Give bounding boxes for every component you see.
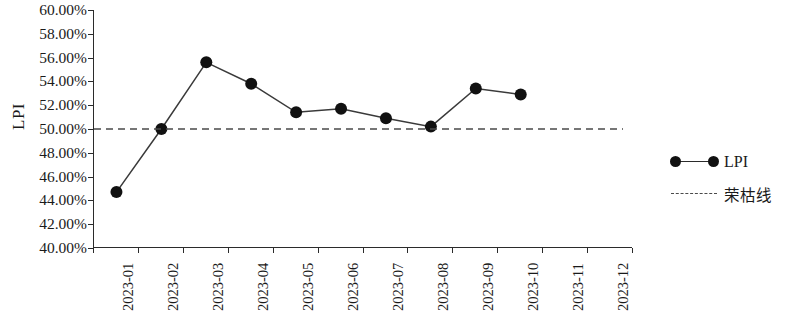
x-axis-tick-label: 2023-11 bbox=[571, 241, 586, 311]
legend-marker-icon bbox=[708, 156, 719, 167]
x-axis-tick-label: 2023-09 bbox=[481, 241, 496, 311]
legend-marker-icon bbox=[670, 156, 681, 167]
x-axis-tick-label: 2023-12 bbox=[616, 241, 631, 311]
legend-dashed-line-icon bbox=[671, 193, 717, 194]
x-axis-tick-label: 2023-04 bbox=[256, 241, 271, 311]
lpi-line-chart: LPI 60.00%58.00%56.00%54.00%52.00%50.00%… bbox=[0, 0, 800, 321]
legend-item-reference-line[interactable]: 荣枯线 bbox=[668, 178, 796, 210]
x-axis-tick-label: 2023-08 bbox=[436, 241, 451, 311]
legend-key-dashed-line bbox=[668, 185, 720, 203]
x-axis-tick-label: 2023-05 bbox=[301, 241, 316, 311]
legend-key-line-marker bbox=[668, 153, 720, 171]
chart-legend: LPI 荣枯线 bbox=[668, 146, 796, 210]
x-axis-tick-label: 2023-07 bbox=[391, 241, 406, 311]
x-axis-tick-label: 2023-03 bbox=[211, 241, 226, 311]
x-axis-tick-label: 2023-10 bbox=[526, 241, 541, 311]
x-axis-tick-label: 2023-01 bbox=[121, 241, 136, 311]
legend-item-lpi[interactable]: LPI bbox=[668, 146, 796, 178]
x-axis-tick-label: 2023-06 bbox=[346, 241, 361, 311]
legend-label-lpi: LPI bbox=[720, 153, 748, 171]
x-axis-tick-label: 2023-02 bbox=[166, 241, 181, 311]
legend-label-reference-line: 荣枯线 bbox=[720, 183, 772, 205]
